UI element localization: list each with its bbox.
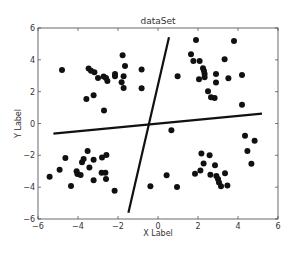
data-point [103, 176, 109, 182]
x-tick-label: 2 [195, 222, 200, 231]
data-point [202, 74, 208, 80]
data-point [231, 38, 237, 44]
data-point [239, 72, 245, 78]
data-point [222, 56, 228, 62]
scatter-chart: dataSet −6−4−20246−6−4−20246 X Label Y L… [0, 0, 293, 254]
x-axis-label: X Label [143, 229, 173, 238]
data-point [121, 85, 127, 91]
data-point [68, 183, 74, 189]
data-point [207, 152, 213, 158]
data-point [205, 88, 211, 94]
data-point [190, 58, 196, 64]
data-point [91, 177, 97, 183]
data-point [213, 80, 219, 86]
y-tick-label: −4 [23, 183, 35, 192]
data-point [139, 85, 145, 91]
data-point [112, 188, 118, 194]
y-tick-label: 6 [30, 24, 35, 33]
data-point [112, 73, 118, 79]
data-point [242, 133, 248, 139]
data-point [57, 167, 63, 173]
data-point [196, 76, 202, 82]
data-point [81, 156, 87, 162]
data-point [104, 78, 110, 84]
data-point [244, 148, 250, 154]
data-point [164, 172, 170, 178]
data-point [122, 63, 128, 69]
data-point [147, 183, 153, 189]
data-point [103, 152, 109, 158]
data-point [207, 172, 213, 178]
data-point [102, 170, 108, 176]
data-point [78, 172, 84, 178]
data-point [91, 157, 97, 163]
data-point [193, 37, 199, 43]
data-point [47, 174, 53, 180]
data-point [188, 51, 194, 57]
data-point [175, 73, 181, 79]
data-point [218, 183, 224, 189]
data-point [91, 69, 97, 75]
x-tick-label: 6 [275, 222, 280, 231]
data-point [213, 71, 219, 77]
data-point [225, 75, 231, 81]
data-point [252, 138, 258, 144]
data-point [85, 148, 91, 154]
y-tick-label: −2 [23, 151, 35, 160]
data-point [174, 184, 180, 190]
data-point [139, 67, 145, 73]
data-point [192, 171, 198, 177]
data-point [86, 164, 92, 170]
data-point [120, 52, 126, 58]
y-tick-label: 2 [30, 88, 35, 97]
data-point [59, 67, 65, 73]
data-point [248, 161, 254, 167]
chart-title: dataSet [140, 16, 176, 26]
data-point [83, 96, 89, 102]
data-point [197, 167, 203, 173]
data-point [239, 102, 245, 108]
data-point [101, 108, 107, 114]
data-point [95, 75, 101, 81]
y-axis-label: Y Label [14, 109, 23, 139]
data-point [197, 58, 203, 64]
data-point [212, 162, 218, 168]
data-point [91, 92, 97, 98]
data-point [212, 95, 218, 101]
y-tick-label: 4 [30, 56, 35, 65]
data-point [62, 155, 68, 161]
data-point [168, 127, 174, 133]
y-tick-label: 0 [30, 120, 35, 129]
data-point [222, 170, 228, 176]
y-tick-label: −6 [23, 215, 35, 224]
data-point [198, 150, 204, 156]
x-tick-label: −2 [112, 222, 124, 231]
data-point [201, 160, 207, 166]
data-point [121, 73, 127, 79]
data-point [224, 182, 230, 188]
data-point [119, 79, 125, 85]
x-tick-label: −4 [72, 222, 84, 231]
x-tick-label: 4 [235, 222, 240, 231]
